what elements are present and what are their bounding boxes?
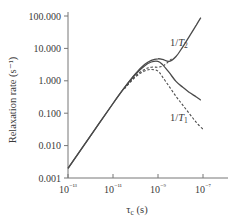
y-axis-label: Relaxation rate (s⁻¹) (6, 57, 18, 144)
y-tick-label: 0.001 (39, 173, 62, 184)
y-tick-label: 0.010 (39, 140, 62, 151)
x-axis-label: τc (s) (126, 204, 148, 217)
relaxation-rate-chart: 0.0010.0100.1001.00010.000100.00010⁻¹³10… (0, 0, 238, 224)
x-tick-label: 10⁻⁷ (195, 183, 212, 195)
label-1-over-t1: 1/T1 (170, 112, 188, 125)
label-1-over-t2: 1/T2 (170, 37, 188, 50)
x-tick-label: 10⁻¹³ (59, 183, 77, 195)
x-tick-label: 10⁻¹¹ (104, 183, 122, 195)
tick-labels: 0.0010.0100.1001.00010.000100.00010⁻¹³10… (29, 11, 212, 196)
plot-area: 0.0010.0100.1001.00010.000100.00010⁻¹³10… (0, 0, 238, 224)
y-tick-label: 1.000 (39, 75, 62, 86)
axes (64, 12, 228, 178)
y-tick-label: 0.100 (39, 108, 62, 119)
y-tick-label: 10.000 (34, 43, 62, 54)
curve-1-t1-dashed (124, 70, 203, 130)
y-tick-label: 100.000 (29, 11, 62, 22)
x-tick-label: 10⁻⁹ (150, 183, 167, 195)
